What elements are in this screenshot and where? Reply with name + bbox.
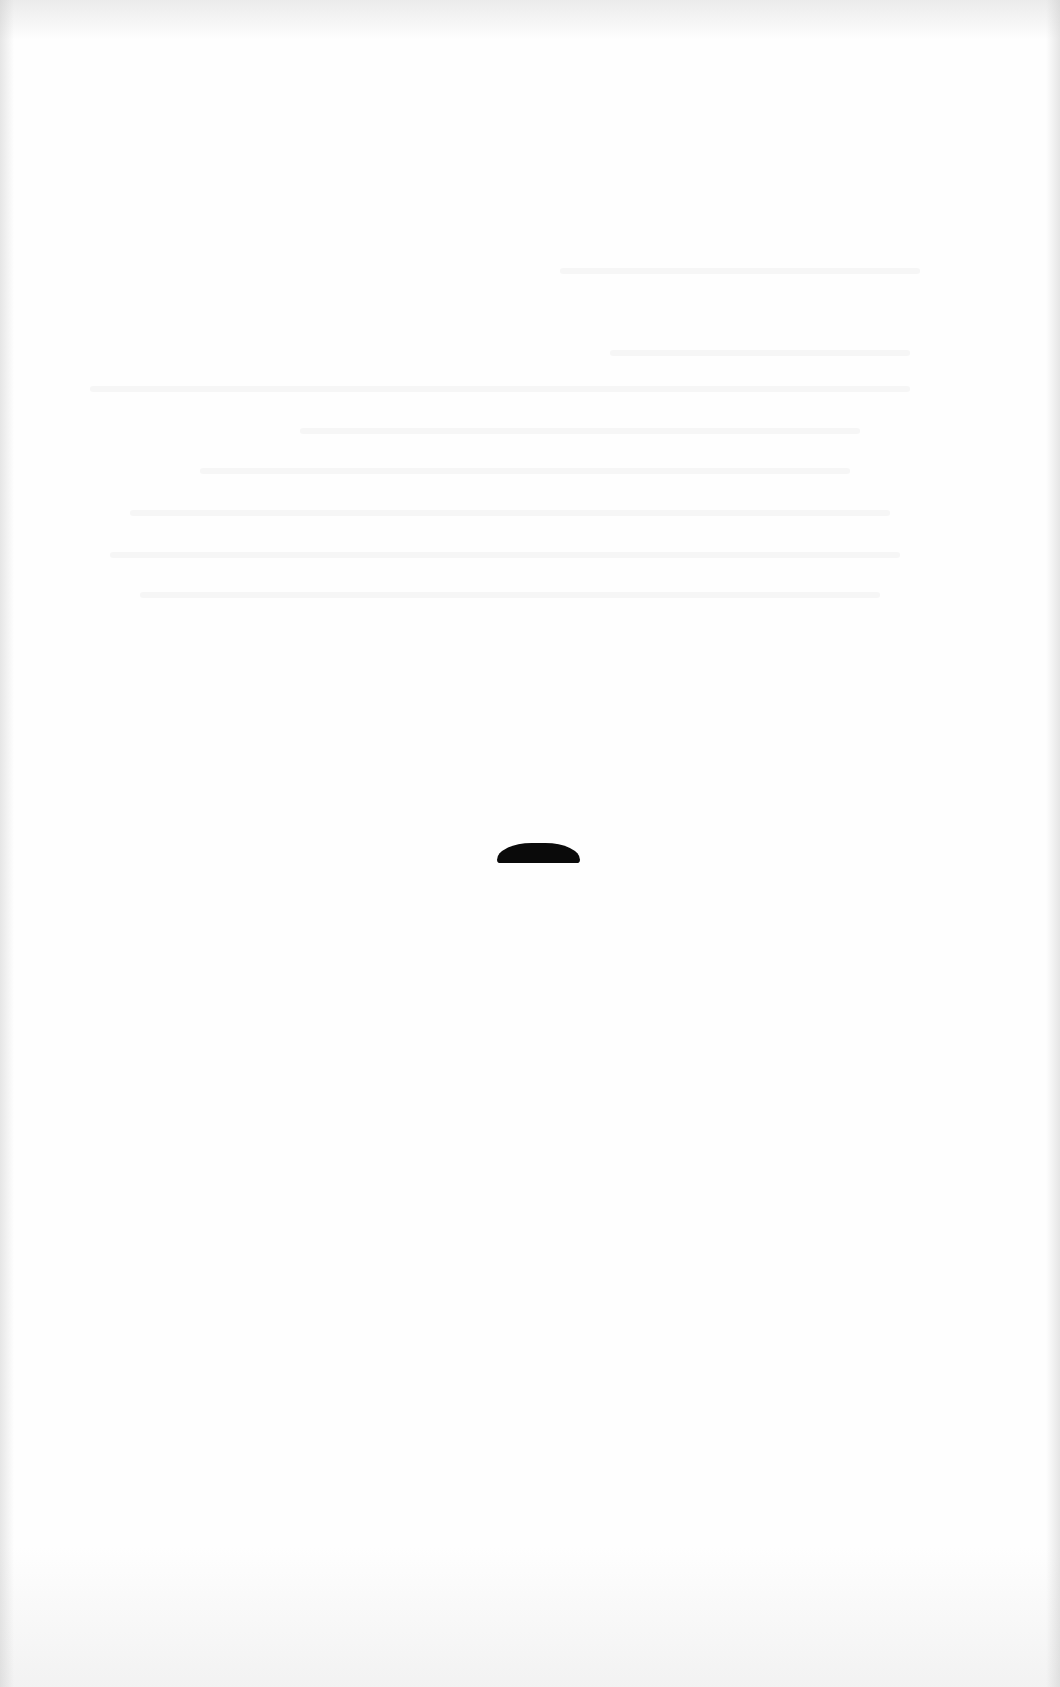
ghost-text-line [110, 552, 900, 558]
ghost-text-line [90, 386, 910, 392]
ghost-text-line [560, 268, 920, 274]
ghost-text-line [140, 592, 880, 598]
ink-blob-mark [497, 843, 580, 863]
scan-edge-bottom [0, 1547, 1060, 1687]
ghost-text-line [130, 510, 890, 516]
scan-edge-top [0, 0, 1060, 40]
ghost-text-line [610, 350, 910, 356]
scan-edge-left [0, 0, 14, 1687]
scan-edge-right [1046, 0, 1060, 1687]
ghost-text-line [300, 428, 860, 434]
scanned-page [0, 0, 1060, 1687]
ghost-text-line [200, 468, 850, 474]
